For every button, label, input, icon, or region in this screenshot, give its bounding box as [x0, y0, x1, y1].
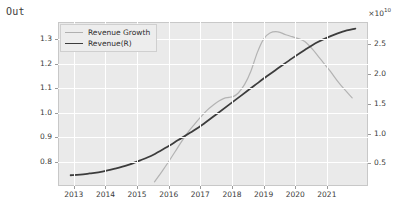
- exponent-power: 10: [384, 7, 391, 13]
- x-axis-tick-mark: [264, 186, 265, 189]
- left-axis-tick-mark: [55, 88, 58, 89]
- matplotlib-figure: 0.80.91.01.11.21.30.51.01.52.02.52013201…: [0, 0, 401, 211]
- right-axis-tick-mark: [368, 44, 371, 45]
- notebook-output-cell: Out 0.80.91.01.11.21.30.51.01.52.02.5201…: [0, 0, 401, 211]
- right-axis-tick-label: 1.5: [374, 99, 401, 108]
- x-axis-tick-mark: [105, 186, 106, 189]
- left-axis-tick-label: 1.1: [26, 83, 52, 92]
- left-axis-tick-label: 1.0: [26, 108, 52, 117]
- right-axis-tick-mark: [368, 104, 371, 105]
- gridline-vertical: [200, 22, 201, 186]
- legend-label-revenue: Revenue(R): [88, 39, 132, 48]
- legend-line-icon-revenue: [65, 43, 83, 44]
- exponent-base: ×10: [368, 9, 384, 18]
- right-axis-tick-label: 1.0: [374, 129, 401, 138]
- right-axis-tick-mark: [368, 163, 371, 164]
- right-axis-tick-label: 2.5: [374, 39, 401, 48]
- left-axis-tick-mark: [55, 39, 58, 40]
- right-axis-tick-label: 0.5: [374, 158, 401, 167]
- left-axis-tick-label: 0.9: [26, 132, 52, 141]
- left-axis-tick-label: 1.3: [26, 34, 52, 43]
- gridline-vertical: [264, 22, 265, 186]
- chart-legend: Revenue Growth Revenue(R): [60, 24, 157, 52]
- x-axis-tick-label: 2021: [307, 190, 347, 199]
- left-axis-tick-mark: [55, 137, 58, 138]
- left-axis-tick-label: 1.2: [26, 59, 52, 68]
- series-line-revenue-growth: [154, 32, 352, 182]
- x-axis-tick-mark: [169, 186, 170, 189]
- gridline-vertical: [232, 22, 233, 186]
- right-axis-tick-mark: [368, 74, 371, 75]
- legend-line-icon-growth: [65, 32, 83, 33]
- legend-label-growth: Revenue Growth: [88, 28, 150, 37]
- x-axis-tick-mark: [200, 186, 201, 189]
- left-axis-tick-mark: [55, 162, 58, 163]
- legend-item-revenue-growth: Revenue Growth: [65, 28, 150, 37]
- x-axis-tick-mark: [295, 186, 296, 189]
- right-axis-exponent-label: ×1010: [368, 7, 391, 18]
- gridline-vertical: [295, 22, 296, 186]
- left-axis-tick-mark: [55, 113, 58, 114]
- left-axis-tick-mark: [55, 64, 58, 65]
- right-axis-tick-mark: [368, 134, 371, 135]
- x-axis-tick-mark: [74, 186, 75, 189]
- gridline-vertical: [327, 22, 328, 186]
- legend-item-revenue: Revenue(R): [65, 39, 150, 48]
- x-axis-tick-mark: [137, 186, 138, 189]
- left-axis-tick-label: 0.8: [26, 157, 52, 166]
- right-axis-tick-label: 2.0: [374, 69, 401, 78]
- x-axis-tick-mark: [232, 186, 233, 189]
- gridline-vertical: [169, 22, 170, 186]
- x-axis-tick-mark: [327, 186, 328, 189]
